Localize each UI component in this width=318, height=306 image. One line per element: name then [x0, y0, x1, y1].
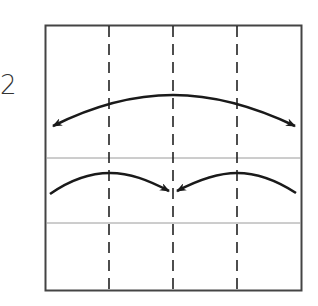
fold-arrow-top-right-icon [173, 95, 295, 126]
fold-arrow-top-left-icon [53, 95, 173, 126]
origami-diagram [0, 0, 318, 306]
